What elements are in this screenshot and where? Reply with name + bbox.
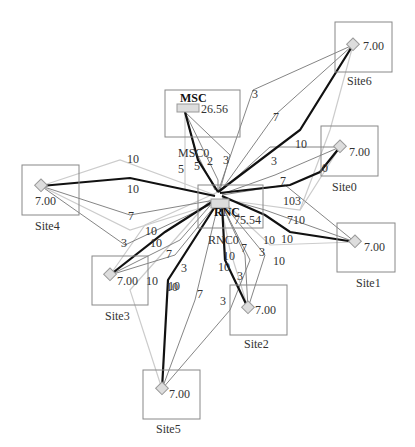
site1-value: 7.00 — [364, 240, 385, 254]
site0-name: Site0 — [332, 180, 357, 194]
rnc-label: RNC0 — [208, 233, 239, 247]
msc-node[interactable]: MSC 26.56 — [165, 90, 240, 137]
edge-label: 3 — [220, 294, 226, 308]
edge-label: 3 — [271, 154, 277, 168]
msc-label: MSC0 — [178, 146, 209, 160]
site1-node[interactable]: 7.00 Site1 — [337, 223, 395, 290]
edge-label: 3 — [223, 153, 229, 167]
edge-label: 10 — [166, 280, 178, 294]
edge-label: 7 — [197, 287, 203, 301]
site2-value: 7.00 — [255, 303, 276, 317]
site2-diamond-icon — [242, 301, 255, 314]
network-diagram: MSC 26.56 MSC0 RNC 75.54 RNC0 7.00 Site0… — [0, 0, 415, 447]
edge-label: 3 — [237, 269, 243, 283]
edge-label: 10 — [127, 182, 139, 196]
edge-label: 7 — [280, 174, 286, 188]
site3-diamond-icon — [104, 268, 117, 281]
site2-name: Site2 — [244, 337, 269, 351]
site4-value: 7.00 — [35, 194, 56, 208]
site5-value: 7.00 — [169, 387, 190, 401]
msc-icon — [177, 104, 199, 112]
edge-label: 10 — [295, 137, 307, 151]
edge-label: 710 — [287, 213, 305, 227]
site4-diamond-icon — [35, 179, 48, 192]
rnc-value: 75.54 — [234, 213, 261, 227]
site0-diamond-icon — [334, 140, 347, 153]
edge-label: 7 — [128, 209, 134, 223]
edge-label: 5 — [194, 159, 200, 173]
edge-label: 10 — [146, 274, 158, 288]
site2-node[interactable]: 7.00 Site2 — [230, 285, 287, 351]
edge-label: 7 — [166, 247, 172, 261]
edge-label: 3 — [181, 261, 187, 275]
edge-label: 7 — [241, 241, 247, 255]
edge-label: 3 — [259, 245, 265, 259]
msc-value: 26.56 — [201, 102, 228, 116]
site5-name: Site5 — [156, 422, 181, 436]
edge-label: 7 — [273, 110, 279, 124]
site3-name: Site3 — [105, 309, 130, 323]
site1-diamond-icon — [349, 235, 362, 248]
edge-label: 10 — [218, 260, 230, 274]
site4-node[interactable]: 7.00 Site4 — [22, 165, 79, 233]
site1-name: Site1 — [356, 276, 381, 290]
edge-label: 10 — [127, 152, 139, 166]
site6-name: Site6 — [347, 74, 372, 88]
site4-name: Site4 — [35, 219, 60, 233]
site5-node[interactable]: 7.00 Site5 — [143, 370, 200, 436]
site3-value: 7.00 — [117, 274, 138, 288]
edge-label: 10 — [281, 232, 293, 246]
edge-label: 3 — [121, 236, 127, 250]
site0-value: 7.00 — [349, 145, 370, 159]
site6-value: 7.00 — [363, 39, 384, 53]
edge-label: 3 — [252, 87, 258, 101]
edge-label: 10 — [150, 236, 162, 250]
edge-label: 5 — [178, 162, 184, 176]
edge-label: 103 — [283, 194, 301, 208]
edge-label: 0 — [322, 161, 328, 175]
edge-label: 2 — [207, 154, 213, 168]
diagram-canvas: MSC 26.56 MSC0 RNC 75.54 RNC0 7.00 Site0… — [0, 0, 415, 447]
edge-label: 10 — [273, 254, 285, 268]
